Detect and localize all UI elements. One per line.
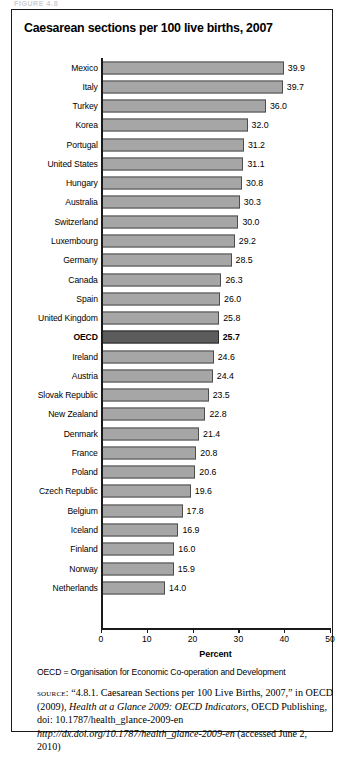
bar-category-label: Iceland: [71, 525, 98, 535]
bar-row: Germany28.5: [12, 251, 331, 270]
bar: [101, 177, 242, 190]
bar-category-label: Netherlands: [53, 583, 98, 593]
bar: [101, 100, 266, 113]
bar-category-label: Denmark: [64, 429, 98, 439]
bar-row: Luxembourg29.2: [12, 231, 331, 250]
bar-value-label: 25.8: [223, 313, 240, 323]
bar-category-label: Luxembourg: [51, 236, 98, 246]
bar-value-label: 19.6: [195, 486, 212, 496]
bar-row: Ireland24.6: [12, 347, 331, 366]
bar: [101, 466, 195, 479]
bar-row: Austria24.4: [12, 366, 331, 385]
figure-kicker: FIGURE 4.8: [14, 0, 58, 8]
bar-category-label: Slovak Republic: [38, 390, 98, 400]
bar: [101, 215, 238, 228]
bar-category-label: Germany: [63, 255, 98, 265]
bar-category-label: Italy: [83, 82, 98, 92]
bar: [101, 562, 174, 575]
bar-value-label: 24.6: [218, 352, 235, 362]
bar-row: France20.8: [12, 443, 331, 462]
bar-row: OECD25.7: [12, 328, 331, 347]
bar-category-label: Austria: [72, 371, 98, 381]
bar: [101, 80, 283, 93]
bar-value-label: 31.1: [247, 159, 264, 169]
bar: [101, 331, 219, 344]
x-axis-tick: [147, 628, 148, 633]
bar-category-label: New Zealand: [48, 409, 98, 419]
bar-category-label: Czech Republic: [39, 486, 98, 496]
bar: [101, 581, 165, 594]
bar-row: Finland16.0: [12, 540, 331, 559]
bar-value-label: 39.7: [287, 82, 304, 92]
bar-category-label: Canada: [68, 275, 98, 285]
bar-category-label: Australia: [65, 197, 98, 207]
bar-row: Norway15.9: [12, 559, 331, 578]
bar: [101, 254, 232, 267]
source-note: source: “4.8.1. Caesarean Sections per 1…: [37, 686, 333, 753]
chart-rows: Mexico39.9Italy39.7Turkey36.0Korea32.0Po…: [12, 58, 331, 597]
bar-row: Denmark21.4: [12, 424, 331, 443]
bar-value-label: 30.8: [246, 178, 263, 188]
bar: [101, 119, 248, 132]
x-axis-title: Percent: [101, 649, 330, 659]
bar: [101, 196, 240, 209]
bar-category-label: United Kingdom: [38, 313, 98, 323]
bar-row: Slovak Republic23.5: [12, 386, 331, 405]
bar-row: Canada26.3: [12, 270, 331, 289]
bar-category-label: Belgium: [67, 506, 97, 516]
bar-value-label: 20.8: [200, 448, 217, 458]
bar: [101, 524, 178, 537]
bar-value-label: 29.2: [239, 236, 256, 246]
bar-category-label: Spain: [76, 294, 97, 304]
bar-category-label: OECD: [73, 332, 97, 342]
bar: [101, 292, 220, 305]
bar-value-label: 36.0: [270, 101, 287, 111]
bar-category-label: Poland: [72, 467, 98, 477]
bar-value-label: 28.5: [236, 255, 253, 265]
bar-category-label: Ireland: [72, 352, 98, 362]
x-axis-line: [101, 628, 330, 630]
page-title: Caesarean sections per 100 live births, …: [24, 21, 273, 35]
bar-category-label: Mexico: [71, 63, 98, 73]
bar-row: Czech Republic19.6: [12, 482, 331, 501]
bar: [101, 273, 221, 286]
bar-row: Australia30.3: [12, 193, 331, 212]
bar-category-label: Finland: [70, 544, 98, 554]
x-axis-tick-label: 40: [279, 634, 289, 644]
bar-category-label: Turkey: [72, 101, 97, 111]
bar: [101, 350, 214, 363]
bar-row: Iceland16.9: [12, 520, 331, 539]
bar-value-label: 20.6: [199, 467, 216, 477]
bar-row: Switzerland30.0: [12, 212, 331, 231]
bar-row: New Zealand22.8: [12, 405, 331, 424]
bar-row: United Kingdom25.8: [12, 308, 331, 327]
x-axis-tick: [193, 628, 194, 633]
bar-value-label: 15.9: [178, 564, 195, 574]
x-axis-tick: [101, 628, 102, 633]
bar-value-label: 25.7: [223, 332, 240, 342]
bar-value-label: 26.3: [225, 275, 242, 285]
bar: [101, 235, 235, 248]
bar-value-label: 31.2: [248, 140, 265, 150]
x-axis-tick: [284, 628, 285, 633]
bar: [101, 446, 196, 459]
bar-value-label: 23.5: [213, 390, 230, 400]
bar-category-label: Switzerland: [54, 217, 97, 227]
y-axis-line: [101, 58, 103, 628]
bar-row: Korea32.0: [12, 116, 331, 135]
bar-value-label: 24.4: [217, 371, 234, 381]
x-axis-tick-label: 20: [188, 634, 198, 644]
bar-row: United States31.1: [12, 154, 331, 173]
bar-value-label: 30.0: [242, 217, 259, 227]
x-axis-tick-label: 0: [99, 634, 104, 644]
bar-row: Mexico39.9: [12, 58, 331, 77]
x-axis-tick-label: 50: [325, 634, 335, 644]
bar-category-label: Norway: [69, 564, 98, 574]
x-axis-tick-label: 30: [234, 634, 244, 644]
bar-value-label: 39.9: [288, 63, 305, 73]
bar-row: Belgium17.8: [12, 501, 331, 520]
bar-category-label: Korea: [75, 120, 97, 130]
bar-row: Hungary30.8: [12, 174, 331, 193]
bar-value-label: 21.4: [203, 429, 220, 439]
x-axis-tick-label: 10: [142, 634, 152, 644]
